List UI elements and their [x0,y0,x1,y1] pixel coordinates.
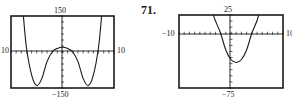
right-xmin-label: −10 [162,30,175,38]
right-axis-ticks [179,15,283,88]
left-xmax-label: 10 [117,47,125,55]
left-ymin-label: −150 [52,91,69,99]
problem-number: 71. [141,4,156,16]
right-ymin-label: −75 [222,91,235,99]
right-xmax-label: 10 [286,30,292,38]
left-ymax-label: 150 [54,7,66,15]
left-axis-ticks [11,16,114,88]
right-curve [213,15,258,63]
left-xmin-label: 10 [1,47,9,55]
right-ymax-label: 25 [224,6,232,14]
